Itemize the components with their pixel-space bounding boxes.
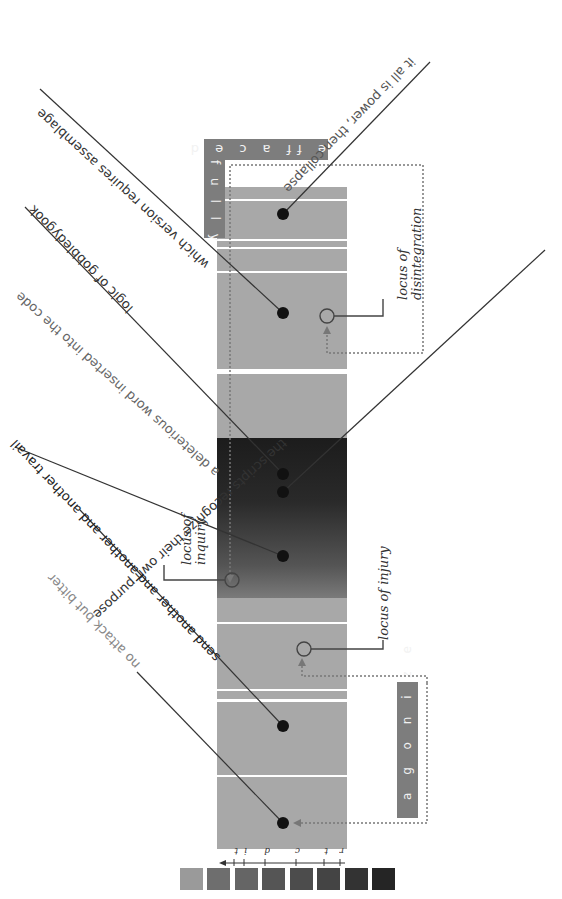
marker-dot (277, 550, 289, 562)
locus-injury-label: locus of injury (377, 546, 391, 640)
legend-swatch (207, 868, 230, 890)
dotted-connector-agonize (296, 683, 427, 823)
locus-injury-circle (297, 642, 311, 656)
marker-dot (277, 208, 289, 220)
locus-disintegration-label: locus of disintegration (396, 208, 424, 300)
arrow-head-icon (298, 658, 306, 666)
arrow-head-icon (323, 326, 331, 334)
legend-arrow-icon (219, 860, 226, 866)
diagram-canvas: e ff a c e d f u l l y a g o n i z e (0, 0, 562, 899)
marker-dot (277, 720, 289, 732)
locus-disintegration-circle (320, 309, 334, 323)
arrow-head-icon (293, 819, 301, 827)
marker-dot (277, 307, 289, 319)
dotted-connector-disintegration (230, 165, 423, 580)
legend-swatch (290, 868, 313, 890)
legend-tick-label: i (244, 844, 247, 858)
marker-dot (277, 817, 289, 829)
legend-swatch (180, 868, 203, 890)
legend-tick-label: t (234, 844, 238, 858)
legend-swatch (262, 868, 285, 890)
legend-tick-label: d (264, 844, 270, 858)
legend-tick-label: c (295, 844, 300, 858)
legend-tick-label: t (324, 844, 328, 858)
dotted-connector-injury (302, 660, 427, 683)
legend-swatch (372, 868, 395, 890)
marker-dot (277, 486, 289, 498)
arrow-head-icon (226, 575, 234, 583)
marker-dot (277, 468, 289, 480)
legend-swatch (317, 868, 340, 890)
legend-swatch (235, 868, 258, 890)
legend-swatch (345, 868, 368, 890)
legend-tick-label: r (340, 844, 344, 858)
